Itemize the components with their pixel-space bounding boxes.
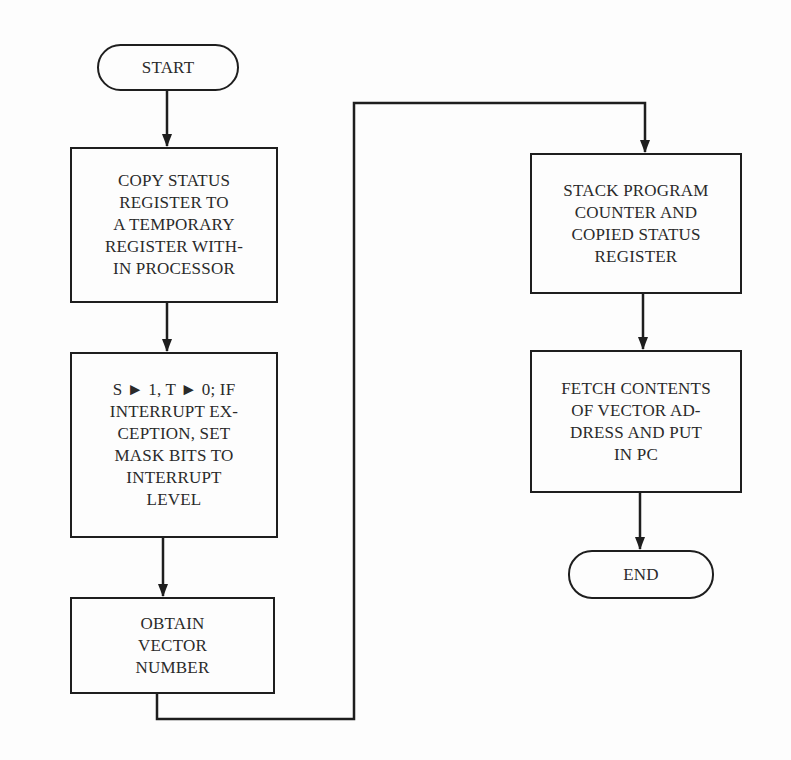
end-terminal: END bbox=[568, 550, 714, 599]
start-label: START bbox=[142, 57, 194, 79]
fetch-vector-label: FETCH CONTENTS OF VECTOR AD- DRESS AND P… bbox=[561, 378, 711, 466]
obtain-vector-box: OBTAIN VECTOR NUMBER bbox=[70, 597, 275, 694]
set-bits-label: S ► 1, T ► 0; IF INTERRUPT EX- CEPTION, … bbox=[110, 379, 238, 511]
stack-pc-box: STACK PROGRAM COUNTER AND COPIED STATUS … bbox=[530, 153, 742, 294]
copy-status-box: COPY STATUS REGISTER TO A TEMPORARY REGI… bbox=[70, 147, 278, 303]
start-terminal: START bbox=[97, 44, 239, 91]
copy-status-label: COPY STATUS REGISTER TO A TEMPORARY REGI… bbox=[105, 170, 243, 280]
set-bits-box: S ► 1, T ► 0; IF INTERRUPT EX- CEPTION, … bbox=[70, 352, 278, 538]
end-label: END bbox=[623, 564, 659, 586]
fetch-vector-box: FETCH CONTENTS OF VECTOR AD- DRESS AND P… bbox=[530, 350, 742, 493]
stack-pc-label: STACK PROGRAM COUNTER AND COPIED STATUS … bbox=[563, 180, 708, 268]
obtain-vector-label: OBTAIN VECTOR NUMBER bbox=[136, 613, 210, 679]
